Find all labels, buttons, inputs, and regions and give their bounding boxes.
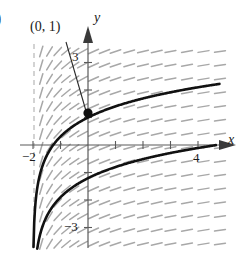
slope-field-dash xyxy=(124,229,135,232)
slope-field-dash xyxy=(138,243,149,246)
slope-field-dash xyxy=(54,89,61,97)
slope-field-dash xyxy=(78,49,88,54)
slope-field-dash xyxy=(40,87,43,98)
slope-field-dash xyxy=(198,202,209,204)
slope-field-dash xyxy=(54,157,61,165)
slope-field-dash xyxy=(47,184,53,193)
part-label: ) xyxy=(0,8,1,27)
slope-field-dash xyxy=(182,216,193,218)
slope-field-dash xyxy=(99,215,109,219)
slope-field-dash xyxy=(110,119,120,122)
slope-field-dash xyxy=(62,240,70,247)
slope-field-dash xyxy=(182,51,193,53)
slope-field-dash xyxy=(151,229,162,231)
slope-field-dash xyxy=(215,174,226,176)
slope-field-dash xyxy=(151,215,162,217)
slope-field-dash xyxy=(40,101,43,112)
slope-field-dash xyxy=(151,202,162,204)
slope-field-dash xyxy=(215,133,226,135)
slope-field-dash xyxy=(99,201,109,205)
slope-field-dash xyxy=(138,215,149,218)
slope-field-dash xyxy=(78,63,88,68)
slope-field-dash xyxy=(62,75,70,82)
slope-field-dash xyxy=(165,229,176,231)
slope-field-dash xyxy=(124,77,135,80)
slope-field-dash xyxy=(198,133,209,135)
slope-field-dash xyxy=(138,188,149,191)
slope-field-dash xyxy=(99,91,109,95)
slope-field-dash xyxy=(54,185,61,193)
slope-field-dash xyxy=(110,187,120,190)
slope-field-dash xyxy=(88,187,98,192)
slope-field-dash xyxy=(88,63,98,68)
slope-field-dash xyxy=(138,50,149,53)
slope-field-dash xyxy=(78,145,88,150)
slope-field-dash xyxy=(54,240,61,248)
slope-field-dash xyxy=(99,50,109,54)
slope-field-dash xyxy=(110,242,120,245)
slope-field-dash xyxy=(47,129,53,138)
slope-field-dash xyxy=(62,199,70,206)
slope-field-dash xyxy=(62,172,70,179)
slope-field-dash xyxy=(124,132,135,135)
slope-field-dash xyxy=(99,146,109,150)
slope-field-dash xyxy=(198,174,209,176)
slope-field-dash xyxy=(151,147,162,149)
slope-field-dash xyxy=(88,242,98,247)
slope-field-dash xyxy=(99,118,109,122)
slope-field-dash xyxy=(62,62,70,69)
slope-field-dash xyxy=(40,74,43,85)
slope-field-dash xyxy=(47,74,53,83)
slope-field-dash xyxy=(40,60,43,71)
slope-field-dash xyxy=(47,157,53,166)
slope-field-dash xyxy=(47,226,53,235)
slope-field-figure: ) (0, 1) y x 3 −3 −2 4 xyxy=(0,0,244,256)
slope-field-dash xyxy=(78,228,88,233)
slope-field-dash xyxy=(215,119,226,121)
slope-field-dash xyxy=(165,243,176,245)
slope-field-dash xyxy=(138,174,149,177)
slope-field-dash xyxy=(151,133,162,135)
slope-field-dash xyxy=(54,102,61,110)
slope-field-dash xyxy=(138,78,149,81)
slope-field-dash xyxy=(78,131,88,136)
slope-field-dash xyxy=(78,76,88,81)
slope-field-dash xyxy=(47,88,53,97)
slope-field-dash xyxy=(54,61,61,69)
slope-field-dash xyxy=(165,188,176,190)
slope-field-dash xyxy=(88,118,98,123)
slope-field-dash xyxy=(215,92,226,94)
slope-field-dash xyxy=(215,106,226,108)
slope-field-dash xyxy=(124,91,135,94)
slope-field-dash xyxy=(78,90,88,95)
slope-field-dash xyxy=(40,142,43,153)
slope-field-dash xyxy=(138,133,149,136)
slope-field-dash xyxy=(151,119,162,121)
slope-field-dash xyxy=(110,160,120,163)
slope-field-dash xyxy=(124,119,135,122)
slope-field-dash xyxy=(110,50,120,53)
slope-field-dash xyxy=(165,160,176,162)
slope-field-dash xyxy=(99,173,109,177)
slope-field-dash xyxy=(99,160,109,164)
slope-field-dash xyxy=(47,47,53,56)
slope-field-dash xyxy=(215,202,226,204)
slope-field-dash xyxy=(88,145,98,150)
slope-field-dash xyxy=(99,187,109,191)
slope-field-dash xyxy=(54,226,61,234)
slope-field-dash xyxy=(124,187,135,190)
slope-field-dash xyxy=(198,229,209,231)
slope-field-dash xyxy=(124,174,135,177)
slope-field-dash xyxy=(99,63,109,67)
slope-field-dash xyxy=(62,103,70,110)
slope-field-dash xyxy=(88,104,98,109)
slope-field-dash xyxy=(151,174,162,176)
slope-field-dash xyxy=(182,229,193,231)
slope-field-dash xyxy=(99,242,109,246)
slope-field-dash xyxy=(88,228,98,233)
x-axis-label: x xyxy=(228,133,234,147)
slope-field-dash xyxy=(165,202,176,204)
slope-field-dash xyxy=(165,174,176,176)
slope-field-dash xyxy=(198,119,209,121)
slope-field-dash xyxy=(47,239,53,248)
